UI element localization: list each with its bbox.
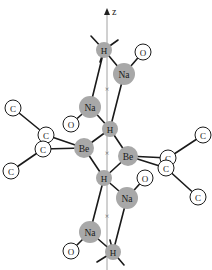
z-axis-arrowhead-icon (104, 8, 110, 15)
atom-na: Na (116, 187, 138, 209)
atom-o: O (63, 116, 79, 132)
atom-c: C (3, 163, 19, 179)
atom-label: H (101, 46, 108, 56)
atom-label: C (8, 167, 14, 177)
atom-na: Na (79, 96, 101, 118)
axis-marker: × (104, 149, 109, 156)
atom-o: O (63, 243, 79, 259)
atom-label: O (142, 174, 149, 184)
atom-label: C (40, 145, 46, 155)
atom-label: Na (84, 103, 96, 113)
atom-h: H (105, 244, 121, 260)
axis-marker: × (104, 85, 109, 92)
atom-h: H (96, 42, 112, 58)
atom-c: C (5, 100, 21, 116)
atom-label: C (200, 131, 206, 141)
atom-be: Be (118, 146, 138, 166)
atom-label: H (110, 248, 117, 258)
atom-label: Be (123, 152, 134, 162)
atom-na: Na (113, 63, 135, 85)
atom-c: C (190, 189, 206, 205)
atom-label: Na (121, 194, 133, 204)
atom-c: C (35, 141, 51, 157)
atom-label: C (163, 164, 169, 174)
atom-h: H (102, 121, 118, 137)
atom-h: H (96, 170, 112, 186)
atom-o: O (137, 170, 153, 186)
atom-c: C (158, 160, 174, 176)
atom-na: Na (79, 221, 101, 243)
atom-label: O (140, 48, 147, 58)
atom-label: H (107, 125, 114, 135)
atom-o: O (135, 44, 151, 60)
atom-label: C (195, 193, 201, 203)
molecular-structure-diagram: z ××× HONaNaOHCCCCBeBeCCCCHONaNaOH (0, 0, 212, 270)
z-axis-label: z (112, 6, 117, 17)
atom-label: Na (118, 70, 130, 80)
atom-label: C (43, 131, 49, 141)
atom-label: H (101, 174, 108, 184)
atom-c: C (195, 127, 211, 143)
atom-label: Be (79, 144, 90, 154)
atom-be: Be (74, 138, 94, 158)
atom-label: C (10, 104, 16, 114)
atom-label: O (68, 247, 75, 257)
atom-label: O (68, 120, 75, 130)
atom-label: Na (84, 228, 96, 238)
axis-marker: × (104, 212, 109, 219)
atom-c: C (38, 127, 54, 143)
